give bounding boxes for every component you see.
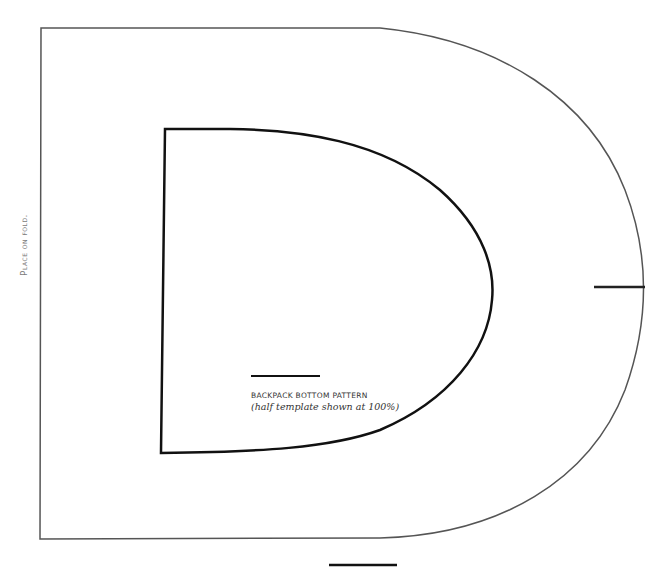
place-on-fold-label: Place on fold. [19,214,29,276]
pattern-subtitle: (half template shown at 100%) [251,401,399,412]
backpack-bottom-pattern [0,0,672,575]
pattern-title: BACKPACK BOTTOM PATTERN [251,391,368,400]
outer-cut-line [40,28,644,539]
